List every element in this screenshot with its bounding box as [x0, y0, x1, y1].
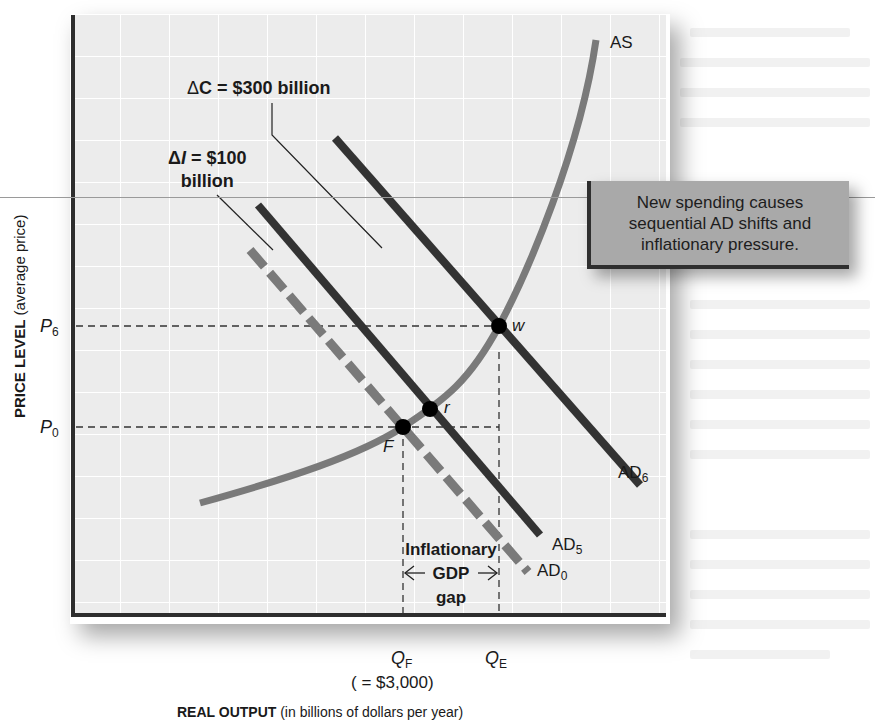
plot-area: [72, 15, 666, 617]
y-tick-p0: P0: [40, 417, 59, 440]
delta-i-annotation: ΔI = $100 billion: [168, 147, 247, 193]
inflationary-gap-label: Inflationary GDP gap: [396, 538, 506, 610]
point-r: [422, 401, 438, 417]
callout-line: sequential AD shifts and: [629, 213, 811, 234]
point-f: [395, 419, 411, 435]
delta-c-annotation: ΔC = $300 billion: [187, 78, 331, 99]
chart-canvas: [0, 0, 875, 720]
callout-line: inflationary pressure.: [629, 234, 811, 255]
point-f-label: F: [383, 437, 393, 457]
ad5-label: AD5: [552, 535, 582, 557]
y-axis-title: PRICE LEVEL (average price): [11, 215, 28, 418]
ad0-label: AD0: [537, 561, 567, 583]
callout-box: New spending causes sequential AD shifts…: [587, 181, 849, 269]
x-tick-qe: QE: [485, 648, 507, 671]
ad6-label: AD6: [618, 463, 648, 485]
x-tick-qf: QF: [391, 648, 412, 671]
point-w: [491, 318, 507, 334]
y-tick-p6: P6: [40, 316, 59, 339]
callout-line: New spending causes: [629, 192, 811, 213]
point-r-label: r: [444, 398, 450, 418]
as-label: AS: [610, 33, 633, 53]
x-axis-title: REAL OUTPUT (in billions of dollars per …: [177, 704, 463, 720]
x-tick-qf-note: ( = $3,000): [351, 673, 434, 693]
point-w-label: w: [512, 316, 524, 336]
